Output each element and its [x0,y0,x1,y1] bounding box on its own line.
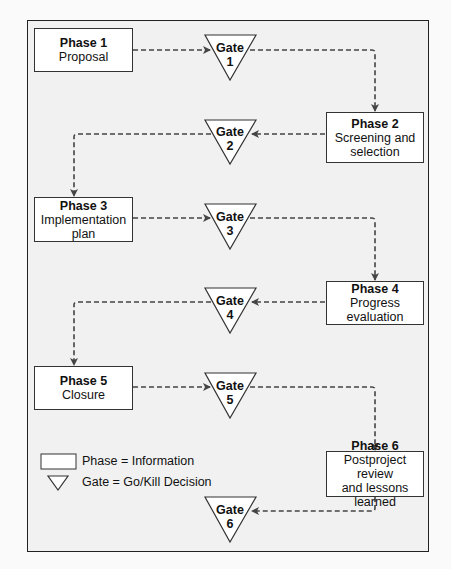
gate-3-word: Gate [204,210,256,224]
gate-1-label: Gate 1 [204,41,256,69]
gate-2-number: 2 [204,139,256,153]
phase-6-desc-line1: Postproject review [327,453,423,481]
gate-1-word: Gate [204,41,256,55]
connector-g1-p2 [250,50,375,111]
phase-5-title: Phase 5 [60,374,107,388]
gate-5-number: 5 [204,393,256,407]
phase-5-box: Phase 5 Closure [34,366,133,410]
phase-4-box: Phase 4 Progress evaluation [326,281,424,325]
gate-3-label: Gate 3 [204,210,256,238]
phase-1-box: Phase 1 Proposal [34,28,133,72]
phase-6-box: Phase 6 Postproject review and lessons l… [326,451,424,497]
phase-3-box: Phase 3 Implementation plan [34,197,133,242]
gate-4-word: Gate [204,294,256,308]
phase-3-desc-line1: Implementation [41,213,126,227]
phase-2-title: Phase 2 [351,117,398,131]
gate-2-word: Gate [204,125,256,139]
connector-g4-p5 [74,302,211,365]
gate-6-number: 6 [204,517,256,531]
legend-gate-label: Gate = Go/Kill Decision [82,475,212,489]
gate-4-label: Gate 4 [204,294,256,322]
phase-6-desc-line2: and lessons learned [327,481,423,509]
phase-6-title: Phase 6 [351,439,398,453]
connector-g2-p3 [74,134,211,196]
gate-6-word: Gate [204,503,256,517]
legend-phase-label: Phase = Information [82,454,194,468]
phase-4-title: Phase 4 [351,282,398,296]
legend-phase-icon [41,454,76,469]
legend-gate-icon [48,476,68,490]
gate-5-label: Gate 5 [204,379,256,407]
phase-4-desc: Progress evaluation [327,296,423,324]
phase-2-box: Phase 2 Screening and selection [326,112,424,163]
gate-2-label: Gate 2 [204,125,256,153]
gate-5-word: Gate [204,379,256,393]
phase-2-desc-line1: Screening and [335,131,416,145]
phase-1-title: Phase 1 [60,36,107,50]
gate-4-number: 4 [204,308,256,322]
gate-3-number: 3 [204,224,256,238]
phase-gate-diagram: Phase 1 Proposal Phase 2 Screening and s… [0,0,451,569]
phase-3-title: Phase 3 [60,199,107,213]
phase-2-desc-line2: selection [350,145,399,159]
phase-1-desc: Proposal [59,50,108,64]
phase-5-desc: Closure [62,388,105,402]
gate-6-label: Gate 6 [204,503,256,531]
connector-g3-p4 [250,218,375,280]
gate-1-number: 1 [204,55,256,69]
phase-3-desc-line2: plan [72,227,96,241]
